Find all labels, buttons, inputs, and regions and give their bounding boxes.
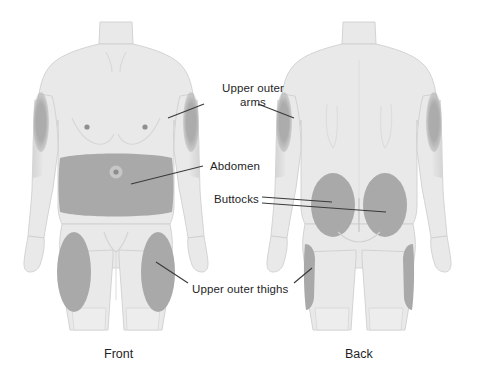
front-left-hand (24, 236, 44, 272)
front-left-upper-outer-arm-site (33, 92, 49, 152)
back-left-upper-outer-thigh-site (304, 244, 315, 310)
callout-buttocks: Buttocks (214, 192, 259, 206)
callout-upper-outer-arms-line1: Upper outer (207, 81, 299, 95)
injection-site-illustration: Upper outer arms Abdomen Buttocks Upper … (0, 0, 478, 380)
body-diagram-svg (0, 0, 478, 380)
back-left-buttock-site (311, 173, 355, 237)
callout-upper-outer-arms: Upper outer arms (207, 81, 299, 109)
back-right-hand (431, 236, 451, 272)
back-right-upper-outer-thigh-site (403, 244, 414, 310)
back-body-figure (267, 22, 451, 330)
front-neck (99, 22, 133, 44)
back-left-hand (267, 236, 287, 272)
back-left-knee (315, 308, 349, 330)
front-right-upper-outer-thigh-site (141, 232, 175, 312)
back-neck (342, 22, 376, 44)
back-right-knee (369, 308, 403, 330)
back-right-upper-outer-arm-site (426, 92, 442, 152)
caption-front: Front (104, 347, 133, 361)
caption-back: Back (345, 347, 373, 361)
front-right-upper-outer-arm-site (183, 92, 199, 152)
front-abdomen-site (59, 154, 174, 217)
callout-abdomen: Abdomen (210, 159, 260, 173)
front-body-figure (24, 22, 208, 330)
front-right-nipple (142, 124, 147, 129)
callout-upper-outer-arms-line2: arms (207, 95, 299, 109)
front-left-upper-outer-thigh-site (57, 232, 91, 312)
front-left-nipple (84, 124, 89, 129)
back-right-buttock-site (363, 173, 407, 237)
front-navel-inner (113, 169, 118, 174)
callout-upper-outer-thighs: Upper outer thighs (192, 282, 288, 296)
front-right-hand (188, 236, 208, 272)
